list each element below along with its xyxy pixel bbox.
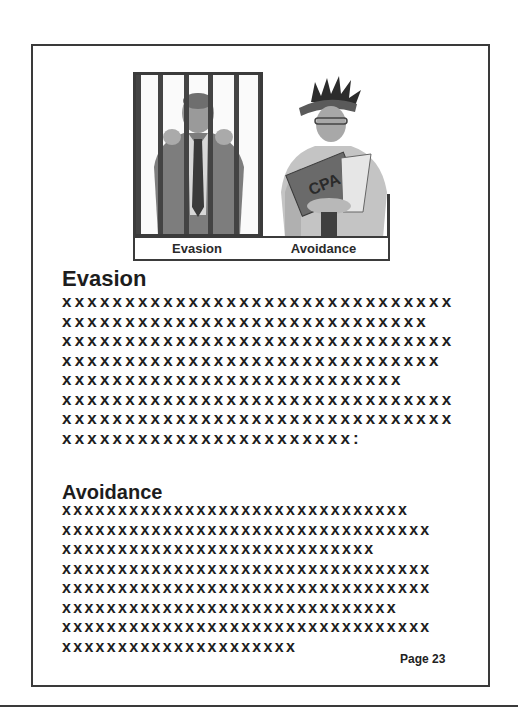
body-line: xxxxxxxxxxxxxxxxxxxxxxxxxxxxxxxxx — [62, 559, 432, 579]
body-line: xxxxxxxxxxxxxxxxxxxxxxxxxxxxxxxxx — [62, 617, 432, 637]
frame-right-post — [387, 194, 390, 238]
body-line: xxxxxxxxxxxxxxxxxxxxxxxxxxxxxxx — [62, 500, 432, 520]
caption-avoidance: Avoidance — [259, 241, 388, 256]
page-number: Page 23 — [400, 652, 445, 666]
jail-bar — [136, 75, 141, 234]
jail-bar — [208, 75, 213, 234]
caption-evasion: Evasion — [135, 241, 259, 256]
jail-bar — [158, 75, 163, 234]
body-line: xxxxxxxxxxxxxxxxxxxxx — [62, 637, 432, 657]
body-line: xxxxxxxxxxxxxxxxxxxxxxx: — [62, 429, 454, 449]
body-line: xxxxxxxxxxxxxxxxxxxxxxxxxxxxxxx — [62, 331, 454, 351]
bottom-divider — [0, 705, 518, 707]
body-line: xxxxxxxxxxxxxxxxxxxxxxxxxxxx — [62, 539, 432, 559]
man-behind-bars-icon — [136, 75, 260, 234]
body-line: xxxxxxxxxxxxxxxxxxxxxxxxxxxxxxxxx — [62, 520, 432, 540]
caption-band: Evasion Avoidance — [133, 236, 390, 261]
body-line: xxxxxxxxxxxxxxxxxxxxxxxxxxxxxxx — [62, 409, 454, 429]
body-line: xxxxxxxxxxxxxxxxxxxxxxxxxxxxxxx — [62, 390, 454, 410]
jail-cage-illustration — [133, 72, 263, 237]
evasion-avoidance-figure: CPA Evasion Avoidance — [133, 72, 391, 261]
body-line: xxxxxxxxxxxxxxxxxxxxxxxxxxxxxxxxx — [62, 578, 432, 598]
body-line: xxxxxxxxxxxxxxxxxxxxxxxxxxxxxx — [62, 598, 432, 618]
jail-bar — [234, 75, 239, 234]
section-heading-evasion: Evasion — [62, 266, 146, 292]
jail-bar — [184, 75, 189, 234]
body-line: xxxxxxxxxxxxxxxxxxxxxxxxxxxxxxx — [62, 292, 454, 312]
person-with-book-icon: CPA — [271, 72, 391, 238]
section-body-avoidance: xxxxxxxxxxxxxxxxxxxxxxxxxxxxxxx xxxxxxxx… — [62, 500, 432, 656]
jail-bar — [258, 75, 263, 234]
body-line: xxxxxxxxxxxxxxxxxxxxxxxxxxxxxx — [62, 351, 454, 371]
body-line: xxxxxxxxxxxxxxxxxxxxxxxxxxx — [62, 370, 454, 390]
section-body-evasion: xxxxxxxxxxxxxxxxxxxxxxxxxxxxxxx xxxxxxxx… — [62, 292, 454, 448]
body-line: xxxxxxxxxxxxxxxxxxxxxxxxxxxxx — [62, 312, 454, 332]
